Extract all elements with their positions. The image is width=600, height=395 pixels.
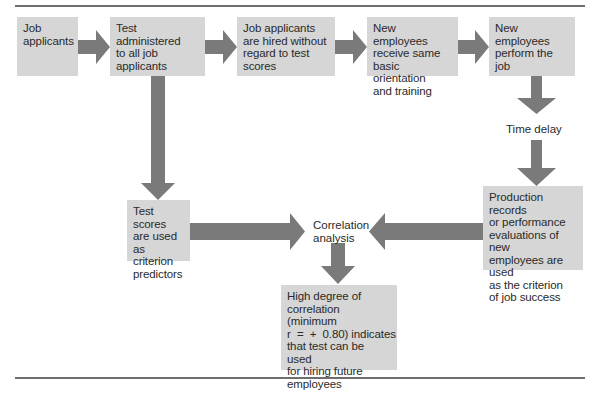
node-high-degree: High degree of correlation (minimum r = … xyxy=(281,285,397,370)
node-text: perform the xyxy=(495,47,569,60)
label-correlation-analysis: Correlation analysis xyxy=(313,219,369,244)
node-text: job xyxy=(495,60,569,73)
node-text: basic orientation xyxy=(373,60,452,85)
node-test-administered: Test administered to all job applicants xyxy=(110,17,205,76)
arrow-down-icon xyxy=(517,140,556,186)
node-text: Production records xyxy=(489,191,577,216)
node-text: applicants xyxy=(116,60,199,73)
node-production-records: Production records or performance evalua… xyxy=(483,186,583,270)
arrow-right-icon xyxy=(458,30,489,64)
node-text: New employees xyxy=(373,22,452,47)
arrow-right-icon xyxy=(190,213,305,250)
node-text: that test can be used xyxy=(287,340,391,365)
node-text: applicants xyxy=(23,35,72,48)
arrow-left-icon xyxy=(369,213,483,250)
node-text: are hired without xyxy=(243,35,329,48)
node-perform-job: New employees perform the job xyxy=(489,17,575,76)
node-text: employees are used xyxy=(489,254,577,279)
node-text: scores xyxy=(243,60,329,73)
arrow-right-icon xyxy=(335,30,367,64)
node-text: receive same xyxy=(373,47,452,60)
node-text: Test scores xyxy=(133,205,184,230)
arrow-down-icon xyxy=(517,76,556,114)
node-job-applicants: Job applicants xyxy=(17,17,78,76)
node-orientation: New employees receive same basic orienta… xyxy=(367,17,458,76)
node-text: or performance xyxy=(489,216,577,229)
node-text: Correlation xyxy=(313,219,369,232)
node-text: r = + 0.80) indicates xyxy=(287,328,391,341)
node-test-scores: Test scores are used as criterion predic… xyxy=(127,200,190,261)
node-text: High degree of xyxy=(287,290,391,303)
node-text: evaluations of new xyxy=(489,229,577,254)
node-hired-without-regard: Job applicants are hired without regard … xyxy=(237,17,335,76)
node-text: Test administered xyxy=(116,22,199,47)
node-text: predictors xyxy=(133,268,184,281)
node-text: analysis xyxy=(313,232,369,245)
node-text: for hiring future xyxy=(287,365,391,378)
node-text: New employees xyxy=(495,22,569,47)
node-text: of job success xyxy=(489,291,577,304)
node-text: and training xyxy=(373,85,452,98)
node-text: Time delay xyxy=(506,123,562,135)
arrow-right-icon xyxy=(205,30,237,64)
node-text: criterion xyxy=(133,255,184,268)
arrow-right-icon xyxy=(78,30,110,64)
label-time-delay: Time delay xyxy=(506,123,562,136)
node-text: to all job xyxy=(116,47,199,60)
arrow-down-icon xyxy=(321,243,355,284)
node-text: as the criterion xyxy=(489,279,577,292)
node-text: employees xyxy=(287,378,391,391)
node-text: Job applicants xyxy=(243,22,329,35)
node-text: correlation (minimum xyxy=(287,303,391,328)
node-text: regard to test xyxy=(243,47,329,60)
node-text: are used as xyxy=(133,230,184,255)
arrow-down-icon xyxy=(141,76,175,200)
node-text: Job xyxy=(23,22,72,35)
